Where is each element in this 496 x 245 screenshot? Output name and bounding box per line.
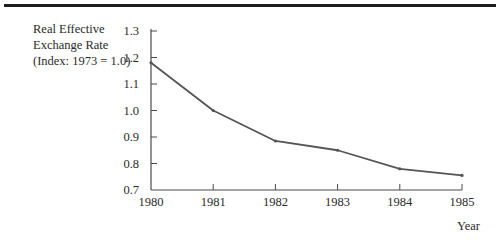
x-tick-label: 1983 — [325, 195, 350, 209]
y-tick-label: 1.3 — [123, 24, 139, 38]
y-tick-label: 0.8 — [123, 157, 139, 171]
y-tick-label: 1.1 — [123, 77, 139, 91]
data-point — [212, 109, 215, 112]
data-point — [274, 139, 277, 142]
y-tick-label: 0.7 — [123, 183, 139, 197]
data-point — [460, 174, 463, 177]
data-point — [398, 167, 401, 170]
data-point — [336, 149, 339, 152]
x-tick-label: 1984 — [387, 195, 413, 209]
data-point — [149, 61, 152, 64]
x-tick-label: 1985 — [450, 195, 475, 209]
y-ticks: 0.70.80.91.01.11.21.3 — [123, 24, 157, 197]
series-line — [151, 63, 462, 176]
x-ticks: 198019811982198319841985 — [139, 184, 475, 209]
y-tick-label: 1.2 — [123, 51, 139, 65]
line-chart: 0.70.80.91.01.11.21.3 198019811982198319… — [0, 0, 496, 245]
series — [149, 61, 463, 177]
axes — [151, 29, 462, 190]
x-tick-label: 1982 — [263, 195, 288, 209]
x-tick-label: 1980 — [139, 195, 164, 209]
x-tick-label: 1981 — [201, 195, 226, 209]
y-tick-label: 0.9 — [123, 130, 139, 144]
x-axis-label: Year — [457, 219, 481, 233]
y-tick-label: 1.0 — [123, 104, 139, 118]
